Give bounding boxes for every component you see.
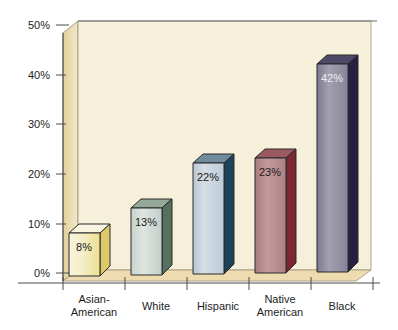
- bar-side-face: [286, 149, 296, 273]
- bar-native-american[interactable]: 23%: [255, 149, 296, 273]
- cat-label-black: Black: [329, 300, 356, 312]
- bar-chart: 50% 40% 30% 20% 10% 0% 8% 13% 22%: [0, 0, 398, 330]
- bar-value-white: 13%: [135, 216, 157, 228]
- bar-value-hispanic: 22%: [197, 171, 219, 183]
- cat-label-native-american-line1: Native: [264, 293, 295, 305]
- chart-canvas: 50% 40% 30% 20% 10% 0% 8% 13% 22%: [0, 0, 398, 330]
- bar-side-face: [348, 55, 358, 272]
- bar-asian-american[interactable]: 8%: [69, 224, 110, 276]
- bar-hispanic[interactable]: 22%: [193, 154, 234, 274]
- cat-label-white: White: [142, 300, 170, 312]
- y-tick-label-20: 20%: [28, 168, 50, 180]
- y-tick-label-0: 0%: [34, 267, 50, 279]
- cat-label-asian-american-line1: Asian-: [78, 293, 110, 305]
- bar-black[interactable]: 42%: [317, 55, 358, 272]
- bar-white[interactable]: 13%: [131, 199, 172, 275]
- y-tick-label-10: 10%: [28, 218, 50, 230]
- bar-side-face: [224, 154, 234, 274]
- bar-value-black: 42%: [321, 72, 343, 84]
- bar-value-native-american: 23%: [259, 166, 281, 178]
- bar-side-face: [100, 224, 110, 276]
- y-tick-label-30: 30%: [28, 118, 50, 130]
- cat-label-native-american-line2: American: [257, 306, 303, 318]
- bar-value-asian-american: 8%: [76, 241, 92, 253]
- bar-front-face: [317, 64, 348, 272]
- y-tick-label-50: 50%: [28, 19, 50, 31]
- y-tick-label-40: 40%: [28, 69, 50, 81]
- cat-label-asian-american-line2: American: [71, 306, 117, 318]
- bar-side-face: [162, 199, 172, 275]
- bar-front-face: [69, 233, 100, 276]
- cat-label-hispanic: Hispanic: [197, 300, 240, 312]
